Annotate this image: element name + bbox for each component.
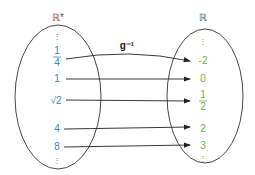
arrow-quarter-to-minus2: [66, 54, 190, 61]
codomain-bottom-dots: ⋮: [199, 154, 207, 163]
codomain-label: ℝ: [199, 12, 207, 23]
function-label: g⁻¹: [120, 40, 135, 51]
domain-label: ℝ*: [52, 12, 64, 23]
mapping-diagram: ℝ* ℝ ⋮ 1 4 1 √2 4 8 ⋮ ⋮ -2 0 1 2 2 3 ⋮ g…: [0, 0, 255, 175]
domain-value-8: 8: [54, 141, 60, 152]
domain-value-4: 4: [54, 123, 60, 134]
domain-value-1: 1: [54, 73, 60, 84]
domain-value-sqrt2: √2: [50, 95, 61, 106]
domain-top-dots: ⋮: [53, 32, 61, 41]
arrow-sqrt2-to-half: [66, 100, 190, 101]
codomain-top-dots: ⋮: [199, 37, 207, 46]
domain-value-quarter-denominator: 4: [54, 57, 60, 68]
codomain-value-minus2: -2: [199, 55, 208, 66]
codomain-value-0: 0: [200, 73, 206, 84]
domain-value-quarter-numerator: 1: [54, 45, 60, 56]
arrow-8-to-3: [64, 145, 190, 147]
codomain-value-half-denominator: 2: [200, 101, 206, 112]
codomain-value-half-numerator: 1: [200, 89, 206, 100]
codomain-value-2: 2: [200, 123, 206, 134]
codomain-value-3: 3: [200, 140, 206, 151]
domain-bottom-dots: ⋮: [53, 156, 61, 165]
